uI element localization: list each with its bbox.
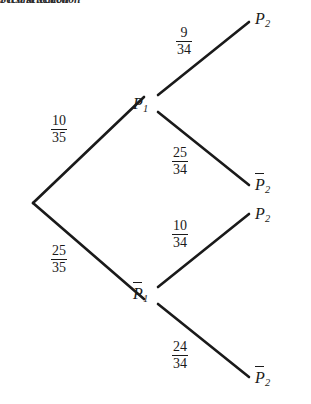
node-p2-bar-upper-base: P [255,176,265,193]
node-p2-upper-base: P [255,10,265,27]
label-first-p1-bar: 25 35 [51,244,67,275]
node-p2-lower-base: P [255,205,265,222]
branch-root-to-p1 [33,97,144,203]
label-first-p1: 10 35 [51,114,67,145]
tree-branches [0,0,311,404]
node-p2-bar-upper-subscript: 2 [265,184,270,195]
label-second-p1-bar-p2-numerator: 10 [172,219,188,234]
node-p1-bar-base: P [133,285,143,302]
node-p2-lower: P2 [255,206,270,225]
label-second-p1-p2-bar-numerator: 25 [172,146,188,161]
label-second-p1-bar-p2: 10 34 [172,219,188,250]
probability-tree-diagram: First selection Second selection P1 P1 P… [0,0,311,404]
branch-p1-to-p2 [158,22,249,95]
node-p2-bar-lower-subscript: 2 [265,377,270,388]
node-p2-upper-subscript: 2 [265,18,270,29]
label-second-p1-bar-p2-bar: 24 34 [172,340,188,371]
node-p2-bar-upper: P2 [255,177,270,196]
node-p1-bar-subscript: 1 [143,293,148,304]
node-p1-base: P [133,95,143,112]
label-second-p1-p2-denominator: 34 [176,41,192,57]
label-second-p1-bar-p2-bar-denominator: 34 [172,355,188,371]
label-first-p1-bar-denominator: 35 [51,259,67,275]
node-p1: P1 [133,96,148,115]
label-first-p1-denominator: 35 [51,129,67,145]
label-second-p1-p2-bar: 25 34 [172,146,188,177]
label-second-p1-p2-bar-denominator: 34 [172,161,188,177]
label-first-p1-numerator: 10 [51,114,67,129]
node-p2-bar-lower-base: P [255,369,265,386]
label-first-p1-bar-numerator: 25 [51,244,67,259]
label-second-p1-bar-p2-denominator: 34 [172,234,188,250]
node-p2-lower-subscript: 2 [265,213,270,224]
label-second-p1-p2-numerator: 9 [176,26,192,41]
node-p2-upper: P2 [255,11,270,30]
label-second-p1-p2: 9 34 [176,26,192,57]
node-p1-bar: P1 [133,286,148,305]
branch-root-to-p1bar [33,203,144,299]
label-second-p1-bar-p2-bar-numerator: 24 [172,340,188,355]
node-p1-subscript: 1 [143,103,148,114]
node-p2-bar-lower: P2 [255,370,270,389]
